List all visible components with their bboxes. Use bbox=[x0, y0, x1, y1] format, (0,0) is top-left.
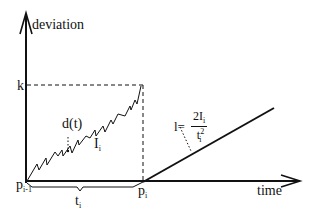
point-end-main: p bbox=[138, 183, 145, 198]
point-start-sub: i-1 bbox=[23, 185, 32, 194]
formula-lhs: l= bbox=[174, 120, 185, 133]
numerator-sub: i bbox=[203, 116, 205, 125]
curve-label-d-t: d(t) bbox=[62, 117, 82, 131]
d-t-point bbox=[67, 150, 69, 152]
area-label-sub: i bbox=[99, 144, 101, 153]
formula-numerator: 2Ii bbox=[191, 110, 207, 127]
point-p-i: pi bbox=[138, 184, 147, 200]
deviation-curve-d-t bbox=[27, 86, 141, 181]
point-start-main: p bbox=[16, 177, 23, 192]
x-axis-label: time bbox=[257, 184, 282, 198]
threshold-k-label: k bbox=[17, 79, 24, 93]
area-label-I-i: Ii bbox=[94, 137, 101, 153]
formula-denominator: t2i bbox=[191, 127, 207, 144]
denominator-sub: i bbox=[199, 135, 201, 144]
interval-sub: i bbox=[79, 201, 81, 210]
formula-fraction: 2Ii t2i bbox=[191, 110, 207, 144]
y-axis-label: deviation bbox=[32, 18, 84, 32]
interval-t-i: ti bbox=[75, 194, 81, 210]
slope-line-l bbox=[143, 108, 274, 182]
interval-brace bbox=[27, 182, 143, 191]
point-p-i-minus-1: pi-1 bbox=[16, 178, 32, 194]
point-end-sub: i bbox=[145, 191, 147, 200]
numerator-main: 2I bbox=[193, 109, 203, 123]
